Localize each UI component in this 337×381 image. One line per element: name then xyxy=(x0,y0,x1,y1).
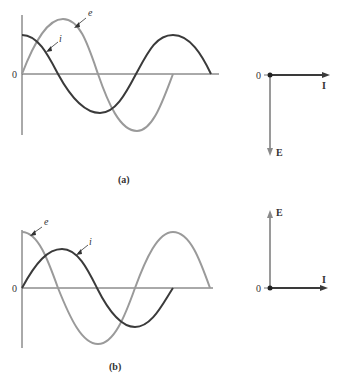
i-pointer-arrowhead xyxy=(76,249,82,255)
panel-b-waveform: 0 e i (b) xyxy=(12,216,213,373)
phasor-label-I: I xyxy=(322,274,326,285)
phasor-label-I: I xyxy=(322,80,326,91)
arrowhead-I xyxy=(320,285,328,291)
figure-canvas: 0 e i (a) 0 I E 0 e xyxy=(0,0,337,381)
panel-a-phasor: 0 I E xyxy=(256,70,330,158)
current-label-i: i xyxy=(59,33,62,44)
arrowhead-I xyxy=(322,72,330,78)
origin-label: 0 xyxy=(12,69,17,80)
panel-b-phasor: 0 I E xyxy=(256,207,328,294)
current-label-i: i xyxy=(89,236,92,247)
phasor-label-E: E xyxy=(276,207,283,218)
arrowhead-E xyxy=(267,148,273,156)
caption-b: (b) xyxy=(109,361,121,373)
phasor-origin-label: 0 xyxy=(256,70,261,81)
phasor-origin-dot xyxy=(268,73,273,78)
arrowhead-E xyxy=(267,210,273,218)
phasor-origin-label: 0 xyxy=(256,283,261,294)
voltage-label-e: e xyxy=(44,216,49,227)
e-pointer-arrowhead xyxy=(30,230,36,236)
origin-label: 0 xyxy=(12,283,17,294)
phasor-label-E: E xyxy=(276,147,283,158)
voltage-wave-e xyxy=(22,19,173,131)
i-pointer-arrowhead xyxy=(46,46,52,52)
panel-a-waveform: 0 e i (a) xyxy=(12,7,219,186)
phasor-origin-dot xyxy=(268,286,273,291)
voltage-label-e: e xyxy=(88,7,93,18)
caption-a: (a) xyxy=(118,174,130,186)
